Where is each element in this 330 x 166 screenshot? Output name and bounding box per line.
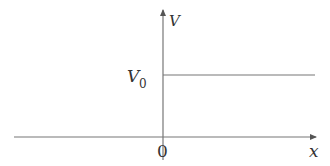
- x-axis-label: x: [309, 141, 319, 161]
- step-potential-diagram: V V 0 0 x: [0, 0, 330, 166]
- origin-label: 0: [157, 141, 168, 161]
- step-level-subscript: 0: [139, 77, 147, 91]
- y-axis-label: V: [169, 12, 182, 30]
